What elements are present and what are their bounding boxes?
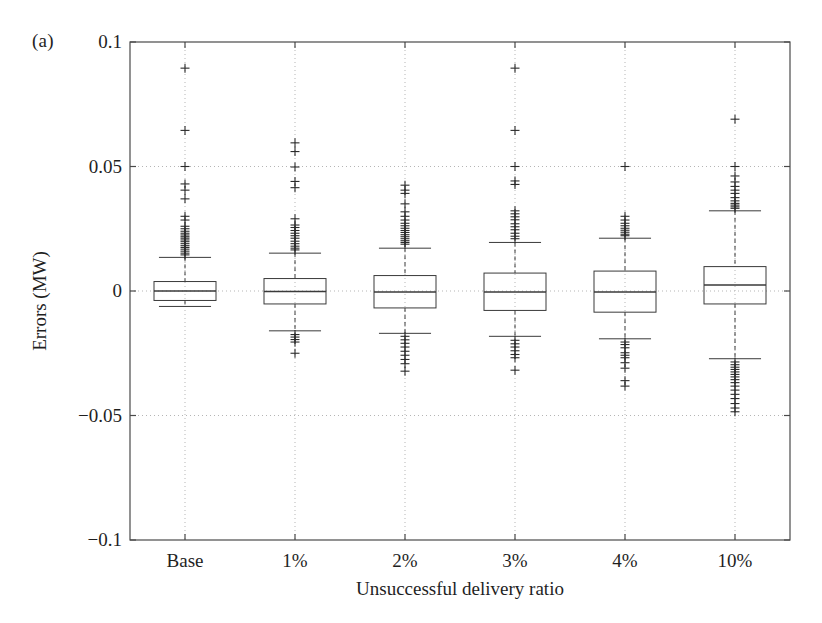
x-tick-label: 4% bbox=[612, 550, 637, 572]
boxplot-figure: (a) Errors (MW) Unsuccessful delivery ra… bbox=[0, 0, 822, 623]
x-tick-label: 1% bbox=[282, 550, 307, 572]
x-tick-label: 2% bbox=[392, 550, 417, 572]
x-tick-label: Base bbox=[167, 550, 204, 572]
x-tick-label: 10% bbox=[718, 550, 753, 572]
x-axis-tick-labels: Base1%2%3%4%10% bbox=[0, 0, 822, 623]
x-tick-label: 3% bbox=[502, 550, 527, 572]
